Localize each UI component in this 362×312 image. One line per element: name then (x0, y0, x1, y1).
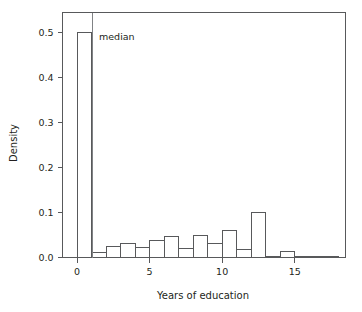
histogram-bar (193, 235, 208, 257)
x-axis-title: Years of education (156, 290, 249, 301)
y-axis-title: Density (8, 124, 19, 162)
y-tick-label: 0.1 (38, 207, 53, 218)
histogram-bar (222, 231, 237, 258)
x-tick-label: 5 (147, 266, 153, 277)
plot-background (0, 0, 362, 312)
histogram-bar (164, 237, 179, 258)
y-tick-label: 0.2 (38, 162, 53, 173)
histogram-bar (237, 250, 252, 258)
histogram-bar (295, 257, 310, 258)
x-tick-label: 10 (216, 266, 228, 277)
y-tick-label: 0.5 (38, 27, 53, 38)
histogram-bar (179, 249, 194, 258)
histogram-bar (121, 243, 136, 257)
histogram-bar (92, 252, 107, 257)
x-tick-label: 0 (74, 266, 80, 277)
histogram-figure: 051015 0.00.10.20.30.40.5 Years of educa… (0, 0, 362, 312)
histogram-bar (150, 240, 165, 257)
histogram-bar (324, 257, 339, 258)
histogram-bar (251, 213, 266, 258)
histogram-bar (280, 252, 295, 258)
y-tick-label: 0.4 (38, 72, 53, 83)
chart-canvas: 051015 0.00.10.20.30.40.5 Years of educa… (0, 0, 362, 312)
histogram-bar (77, 33, 92, 258)
histogram-bar (309, 257, 324, 258)
x-tick-label: 15 (289, 266, 301, 277)
median-label: median (99, 31, 135, 42)
histogram-bar (106, 246, 121, 257)
y-tick-label: 0.0 (38, 252, 53, 263)
histogram-bar (266, 257, 281, 258)
y-tick-label: 0.3 (38, 117, 53, 128)
histogram-bar (135, 247, 150, 257)
histogram-bar (208, 244, 223, 258)
